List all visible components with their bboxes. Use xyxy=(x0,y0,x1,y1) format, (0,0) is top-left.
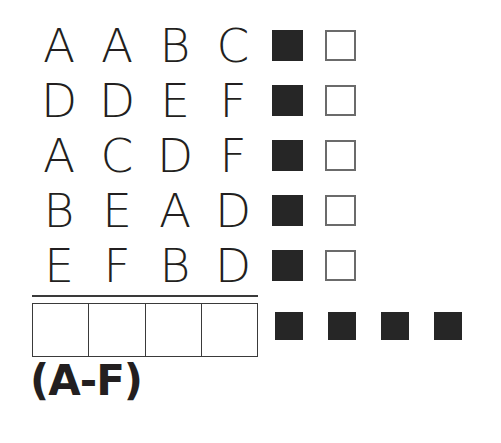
bottom-marker-slot xyxy=(381,312,434,340)
letter-row: A A B C xyxy=(30,18,262,73)
letter-cell: B xyxy=(146,242,204,289)
letter-row: B E A D xyxy=(30,183,262,238)
letter-cell: A xyxy=(146,187,204,234)
filled-square-icon xyxy=(328,312,356,340)
letter-grid: A A B C D D E F A C D F B E A D E F B D xyxy=(30,18,262,293)
letter-cell: B xyxy=(30,187,88,234)
letter-cell: A xyxy=(30,132,88,179)
filled-square-icon xyxy=(381,312,409,340)
divider-rule xyxy=(32,295,258,297)
marker-row xyxy=(272,73,356,128)
letter-cell: D xyxy=(146,132,204,179)
answer-cell[interactable] xyxy=(202,304,257,356)
letter-cell: F xyxy=(88,242,146,289)
outline-square-icon[interactable] xyxy=(325,250,356,281)
marker-column xyxy=(272,18,356,293)
letter-cell: D xyxy=(204,187,262,234)
outline-square-icon[interactable] xyxy=(325,85,356,116)
outline-square-icon[interactable] xyxy=(325,30,356,61)
marker-row xyxy=(272,128,356,183)
answer-cell[interactable] xyxy=(146,304,202,356)
letter-cell: F xyxy=(204,77,262,124)
letter-cell: E xyxy=(30,242,88,289)
answer-range-caption: (A-F) xyxy=(30,360,142,402)
outline-square-icon[interactable] xyxy=(325,195,356,226)
letter-cell: A xyxy=(88,22,146,69)
letter-row: E F B D xyxy=(30,238,262,293)
marker-row xyxy=(272,183,356,238)
bottom-marker-slot xyxy=(434,312,487,340)
letter-cell: E xyxy=(88,187,146,234)
marker-row xyxy=(272,18,356,73)
marker-row xyxy=(272,238,356,293)
letter-cell: C xyxy=(88,132,146,179)
bottom-marker-slot xyxy=(328,312,381,340)
letter-cell: D xyxy=(88,77,146,124)
filled-square-icon xyxy=(272,140,303,171)
answer-cell[interactable] xyxy=(33,304,89,356)
letter-cell: F xyxy=(204,132,262,179)
filled-square-icon xyxy=(434,312,462,340)
letter-cell: B xyxy=(146,22,204,69)
bottom-marker-slot xyxy=(275,312,328,340)
letter-cell: E xyxy=(146,77,204,124)
outline-square-icon[interactable] xyxy=(325,140,356,171)
letter-cell: C xyxy=(204,22,262,69)
letter-cell: A xyxy=(30,22,88,69)
bottom-marker-row xyxy=(275,312,487,340)
answer-table xyxy=(32,303,258,357)
letter-cell: D xyxy=(204,242,262,289)
answer-cell[interactable] xyxy=(89,304,145,356)
worksheet-canvas: A A B C D D E F A C D F B E A D E F B D xyxy=(0,0,501,443)
filled-square-icon xyxy=(272,250,303,281)
filled-square-icon xyxy=(272,195,303,226)
filled-square-icon xyxy=(272,30,303,61)
letter-cell: D xyxy=(30,77,88,124)
letter-row: A C D F xyxy=(30,128,262,183)
filled-square-icon xyxy=(275,312,303,340)
letter-row: D D E F xyxy=(30,73,262,128)
filled-square-icon xyxy=(272,85,303,116)
